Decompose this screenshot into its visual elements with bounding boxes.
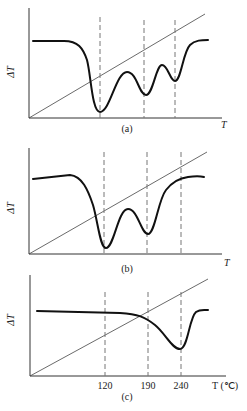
y-axis-label-b: ΔT: [5, 201, 16, 215]
x-axis-label-b: T: [224, 257, 231, 268]
panel-b: ΔT T (b): [5, 148, 231, 275]
panel-a: ΔT T (a): [5, 8, 228, 135]
x-axis-label-a: T: [221, 119, 228, 130]
caption-b: (b): [121, 263, 133, 275]
dta-curve-c: [37, 310, 208, 349]
panel-c: ΔT 120 190 240 T (℃) (c): [5, 275, 238, 403]
dta-figure: ΔT T (a) ΔT T (b) ΔT 120 190 240 T (℃) (…: [0, 0, 247, 411]
x-axis-label-c: T (℃): [212, 380, 238, 392]
tick-label-190: 190: [141, 380, 156, 391]
dta-curve-a: [33, 40, 208, 112]
y-axis-label-a: ΔT: [5, 65, 16, 79]
temperature-line: [29, 14, 205, 118]
tick-label-240: 240: [174, 380, 189, 391]
tick-label-120: 120: [98, 380, 113, 391]
caption-c: (c): [121, 391, 132, 403]
temperature-line: [29, 152, 207, 254]
y-axis-label-c: ΔT: [5, 313, 16, 327]
caption-a: (a): [121, 123, 132, 135]
